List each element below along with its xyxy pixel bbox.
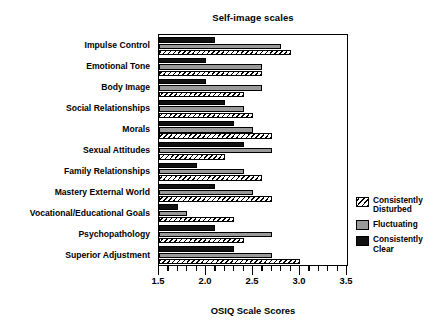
x-tick-label: 2.0 [198,275,211,286]
bar [159,211,187,216]
bar [159,225,215,230]
x-tick-minor [290,266,291,271]
x-tick-minor [308,266,309,271]
bar [159,253,272,258]
category-label: Family Relationships [64,166,150,176]
bar [159,217,234,222]
bar [159,142,244,147]
bar [159,184,215,189]
bar [159,238,244,243]
x-tick-label: 1.5 [151,275,164,286]
bar [159,64,262,69]
legend-item[interactable]: Consistently Clear [356,235,436,254]
bar [159,37,215,42]
category-axis-labels: Impulse ControlEmotional ToneBody ImageS… [0,34,154,266]
bar [159,163,197,168]
x-tick-minor [224,266,225,271]
bar [159,232,272,237]
chart-legend: Consistently DisturbedFluctuatingConsist… [356,196,436,259]
x-tick-minor [186,266,187,271]
x-tick-minor [233,266,234,271]
legend-item[interactable]: Fluctuating [356,220,436,231]
bar [159,58,206,63]
x-tick-major [346,266,347,275]
bar [159,121,234,126]
chart-title: Self-image scales [158,12,348,23]
x-tick-minor [261,266,262,271]
bar [159,190,253,195]
x-tick-minor [243,266,244,271]
category-label: Superior Adjustment [65,250,150,260]
legend-swatch-disturb [356,197,369,207]
category-label: Mastery External World [55,187,150,197]
bar [159,204,178,209]
legend-item[interactable]: Consistently Disturbed [356,196,436,215]
x-tick-label: 3.0 [292,275,305,286]
x-tick-major [299,266,300,275]
x-tick-major [252,266,253,275]
bar [159,92,244,97]
x-tick-major [158,266,159,275]
bar [159,133,272,138]
category-label: Morals [122,124,150,134]
category-label: Social Relationships [66,103,150,113]
x-tick-minor [337,266,338,271]
category-label: Impulse Control [85,40,150,50]
bar [159,196,272,201]
legend-label: Fluctuating [373,220,418,229]
x-axis-ticks [158,266,348,275]
x-tick-minor [271,266,272,271]
x-tick-minor [318,266,319,271]
x-tick-minor [177,266,178,271]
bar [159,175,262,180]
legend-swatch-fluct [356,220,369,230]
x-axis-title: OSIQ Scale Scores [158,305,348,316]
bar [159,79,206,84]
bar [159,113,253,118]
x-tick-label: 2.5 [245,275,258,286]
x-tick-minor [280,266,281,271]
bar [159,100,225,105]
category-label: Sexual Attitudes [83,145,150,155]
bar [159,246,234,251]
category-label: Vocational/Educational Goals [30,208,150,218]
bar [159,259,300,264]
bar [159,169,244,174]
legend-swatch-clear [356,236,369,246]
bar [159,127,253,132]
x-tick-label: 3.5 [339,275,352,286]
bar [159,71,262,76]
chart-root: Self-image scales Impulse ControlEmotion… [0,0,437,329]
bar [159,106,244,111]
x-tick-major [205,266,206,275]
x-tick-minor [167,266,168,271]
bars-layer [159,35,347,265]
x-axis-tick-labels: 1.52.02.53.03.5 [158,275,348,288]
category-label: Emotional Tone [86,61,150,71]
bar [159,44,281,49]
legend-label: Consistently Disturbed [373,196,423,215]
category-label: Body Image [101,82,150,92]
x-tick-minor [214,266,215,271]
bar [159,85,262,90]
legend-label: Consistently Clear [373,235,423,254]
bar [159,50,291,55]
x-tick-minor [327,266,328,271]
bar [159,148,272,153]
category-label: Psychopathology [78,229,150,239]
bar [159,154,225,159]
x-tick-minor [196,266,197,271]
